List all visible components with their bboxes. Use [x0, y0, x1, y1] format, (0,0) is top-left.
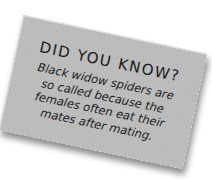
fact-card: DID YOU KNOW? Black widow spiders are so… — [0, 15, 207, 170]
